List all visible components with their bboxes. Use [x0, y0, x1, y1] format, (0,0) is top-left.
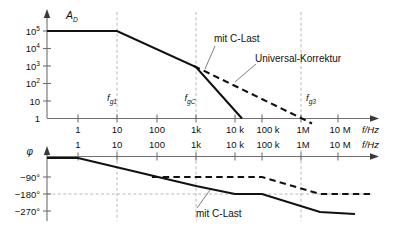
magnitude-y-label-1e4: 104	[26, 42, 41, 54]
magnitude-x-label-100k: 100 k	[256, 124, 279, 135]
magnitude-x-label-1M: 1M	[296, 124, 309, 135]
phase-curve-solid	[47, 158, 355, 214]
magnitude-y-label-1e2: 102	[26, 77, 41, 89]
gain-curve-solid	[47, 31, 242, 119]
phase-x-label-1M: 1M	[296, 139, 309, 150]
magnitude-x-label-1k: 1k	[191, 124, 201, 135]
magnitude-y-label-1: 1	[35, 113, 40, 124]
phase-x-axis-arrow	[370, 153, 379, 159]
phase-x-label-1: 1	[75, 139, 80, 150]
phase-y-axis-arrow	[44, 146, 50, 155]
magnitude-x-label-10k: 10 k	[226, 124, 244, 135]
phase-plot-group: −90° −180° −270° φ 1 10 100 1k 10 k 100 …	[15, 139, 379, 221]
phase-curve-dashed	[152, 177, 372, 194]
magnitude-y-axis-arrow	[44, 9, 50, 18]
magnitude-x-axis-arrow	[370, 115, 379, 121]
annotation-mit-c-last-top: mit C-Last	[214, 33, 260, 44]
marker-label-fgc: fgC	[184, 92, 195, 106]
magnitude-x-label-1: 1	[75, 124, 80, 135]
phase-axis-title: φ	[26, 146, 33, 157]
bode-plot-svg: 105 104 103 102 10 1	[0, 0, 395, 227]
phase-x-label-1k: 1k	[191, 139, 201, 150]
magnitude-y-label-1e5: 105	[26, 25, 41, 37]
phase-x-axis-title: f/Hz	[362, 139, 379, 150]
gain-curve-dashed	[194, 66, 312, 124]
leader-mit-c-last-top	[205, 46, 215, 69]
phase-y-label-m270: −270°	[15, 206, 40, 217]
phase-y-label-m180: −180°	[15, 189, 40, 200]
phase-x-label-10k: 10 k	[226, 139, 244, 150]
leader-mit-c-last-bottom	[197, 190, 210, 208]
leader-universal-korrektur	[235, 64, 256, 82]
magnitude-x-label-10M: 10 M	[329, 124, 350, 135]
phase-y-label-m90: −90°	[20, 172, 40, 183]
annotation-universal-korrektur: Universal-Korrektur	[255, 53, 342, 64]
magnitude-x-axis-title: f/Hz	[362, 124, 379, 135]
magnitude-x-label-100: 100	[149, 124, 165, 135]
phase-x-label-100: 100	[149, 139, 165, 150]
magnitude-y-label-1e1: 10	[29, 96, 40, 107]
annotation-mit-c-last-bottom: mit C-Last	[196, 208, 242, 219]
bode-plot-figure: 105 104 103 102 10 1	[0, 0, 395, 227]
phase-x-label-100k: 100 k	[256, 139, 279, 150]
magnitude-y-label-1e3: 103	[26, 60, 41, 72]
gain-curve-label: AD	[65, 9, 78, 23]
marker-label-fg3: fg3	[306, 92, 316, 106]
phase-x-label-10: 10	[112, 139, 123, 150]
phase-x-label-10M: 10 M	[329, 139, 350, 150]
magnitude-x-label-10: 10	[112, 124, 123, 135]
marker-label-fg1: fg1	[107, 92, 117, 106]
magnitude-plot-group: 105 104 103 102 10 1	[26, 9, 379, 135]
